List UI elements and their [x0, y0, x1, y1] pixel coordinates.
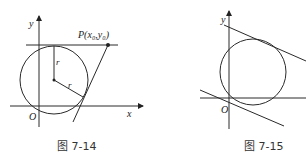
circle	[220, 39, 286, 105]
origin-label: O	[29, 111, 36, 122]
radius-label-slanted: r	[68, 80, 72, 90]
figure-7-15: y O 图 7-15	[200, 11, 306, 153]
caption-7-15: 图 7-15	[244, 140, 283, 153]
point-p	[106, 43, 110, 47]
figure-7-14: y x O r r P(x₀,y₀) 图 7-14	[10, 16, 143, 153]
radius-label-vertical: r	[56, 57, 60, 67]
y-axis-label: y	[28, 18, 34, 29]
x-axis-label: x	[126, 108, 132, 119]
point-p-label: P(x₀,y₀)	[77, 29, 110, 41]
center-point	[53, 79, 56, 82]
lower-tangent-line	[200, 90, 284, 126]
diagram-canvas: y x O r r P(x₀,y₀) 图 7-14 y O 图 7-15	[0, 0, 306, 160]
origin-label: O	[221, 104, 228, 115]
caption-7-14: 图 7-14	[57, 140, 96, 153]
y-axis-label: y	[220, 14, 226, 25]
